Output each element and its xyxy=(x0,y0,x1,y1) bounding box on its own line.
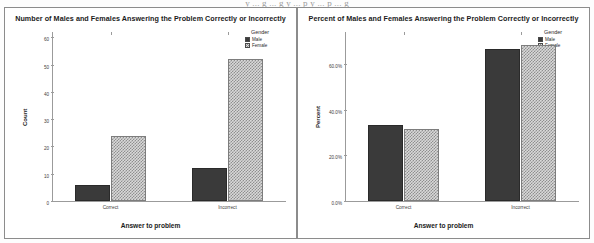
y-tick-label: 0.0% xyxy=(332,201,345,206)
bar-incorrect-male xyxy=(192,168,227,201)
y-tick-mark xyxy=(51,201,54,202)
y-tick-label: 20.0% xyxy=(329,155,345,160)
y-tick-mark xyxy=(344,110,347,111)
y-tick-mark xyxy=(51,65,54,66)
y-axis-line xyxy=(345,32,346,202)
bar-incorrect-female xyxy=(228,59,263,201)
chart-panel-count: Number of Males and Females Answering th… xyxy=(4,7,297,239)
plot-area-percent: Percent 0.0%20.0%40.0%60.0%CorrectIncorr… xyxy=(345,32,579,202)
x-tick-mark xyxy=(111,32,112,35)
bar-correct-female xyxy=(404,129,439,201)
bar-incorrect-female xyxy=(521,45,556,201)
x-tick-label-incorrect: Incorrect xyxy=(511,202,530,210)
charts-container: Number of Males and Females Answering th… xyxy=(4,7,590,239)
x-axis-line xyxy=(52,201,286,202)
bar-correct-female xyxy=(111,136,146,201)
x-tick-label-correct: Correct xyxy=(103,202,119,210)
plot-area-count: Count 0102030405060CorrectIncorrect xyxy=(52,32,286,202)
y-axis-label-percent: Percent xyxy=(315,106,321,128)
y-tick-mark xyxy=(344,201,347,202)
x-tick-label-incorrect: Incorrect xyxy=(218,202,237,210)
y-tick-mark xyxy=(51,37,54,38)
y-tick-mark xyxy=(344,155,347,156)
bar-incorrect-male xyxy=(485,49,520,201)
y-tick-label: 60.0% xyxy=(329,63,345,68)
y-tick-mark xyxy=(344,64,347,65)
y-axis-label-count: Count xyxy=(22,108,28,125)
bar-correct-male xyxy=(368,125,403,201)
x-tick-mark xyxy=(521,32,522,35)
x-tick-label-correct: Correct xyxy=(396,202,412,210)
y-tick-mark xyxy=(51,146,54,147)
x-axis-line xyxy=(345,201,579,202)
y-axis-line xyxy=(52,32,53,202)
figure-page: y ... g ... g y ... p y ... p ... g Numb… xyxy=(0,0,594,243)
x-axis-label-count: Answer to problem xyxy=(5,222,296,229)
y-tick-mark xyxy=(51,119,54,120)
y-tick-mark xyxy=(51,92,54,93)
page-top-cut-text: y ... g ... g y ... p y ... p ... g xyxy=(0,0,594,7)
chart-panel-percent: Percent of Males and Females Answering t… xyxy=(297,7,590,239)
chart-title-percent: Percent of Males and Females Answering t… xyxy=(298,14,589,23)
y-tick-label: 40.0% xyxy=(329,109,345,114)
x-tick-mark xyxy=(228,32,229,35)
bar-correct-male xyxy=(75,185,110,201)
x-axis-label-percent: Answer to problem xyxy=(298,222,589,229)
y-tick-mark xyxy=(51,174,54,175)
x-tick-mark xyxy=(404,32,405,35)
chart-title-count: Number of Males and Females Answering th… xyxy=(5,14,296,23)
